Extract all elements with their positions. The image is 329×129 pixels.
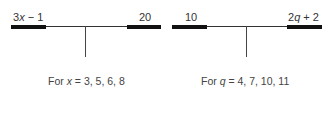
right-diagram-left-label: 10 [185,11,197,23]
caption-part: For [201,75,220,87]
caption-part: = 4, 7, 10, 11 [226,75,290,87]
right-diagram-right-bar [287,25,322,29]
right-diagram-stem [246,26,247,57]
label-part: + 2 [300,11,319,23]
right-diagram-right-label: 2q + 2 [288,11,319,23]
right-diagram-left-bar [172,25,207,29]
right-diagram-caption: For q = 4, 7, 10, 11 [201,75,289,87]
diagram-right: 10 2q + 2 For q = 4, 7, 10, 11 [0,0,329,129]
